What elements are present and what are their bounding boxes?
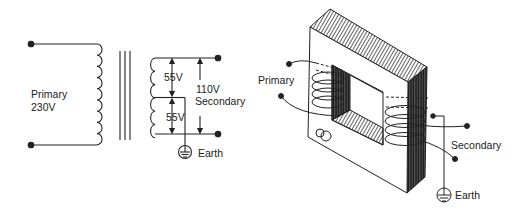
secondary-label: Secondary [195, 95, 246, 107]
transformer-diagram: Primary 230V 55V 55V 110V Secondary Eart… [0, 0, 525, 214]
secondary-center-tap [431, 114, 436, 119]
pictorial-secondary-label: Secondary [451, 139, 502, 151]
lower-half-voltage: 55V [166, 111, 185, 123]
primary-label: Primary [31, 88, 68, 100]
pictorial [279, 9, 470, 202]
secondary-lead-terminal [453, 157, 458, 162]
secondary-lead-terminal [465, 124, 470, 129]
primary-terminal-top [28, 41, 34, 47]
secondary-terminal-bottom [215, 131, 221, 137]
core-lines [120, 51, 130, 140]
earth-icon [179, 146, 192, 159]
pictorial-primary-label: Primary [258, 74, 295, 86]
primary-voltage: 230V [31, 101, 56, 113]
earth-label: Earth [198, 147, 223, 159]
pictorial-earth-label: Earth [455, 189, 480, 201]
secondary-terminal-top [215, 55, 221, 61]
earth-icon [437, 188, 451, 202]
primary-lead-terminal [287, 62, 292, 67]
primary-lead-terminal [279, 94, 284, 99]
secondary-voltage: 110V [196, 83, 220, 95]
core-right-face [407, 67, 427, 193]
upper-half-voltage: 55V [164, 71, 183, 83]
primary-terminal-bottom [28, 142, 34, 148]
